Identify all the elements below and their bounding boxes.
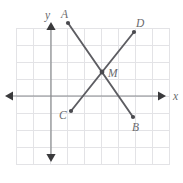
point-label-c: C [59, 109, 67, 121]
point-d [132, 30, 136, 34]
point-label-a: A [60, 8, 69, 20]
y-axis-label: y [44, 9, 51, 22]
geometry-diagram-svg: ABCDM x y [0, 0, 183, 183]
y-axis-down-arrow-icon [46, 154, 55, 162]
x-axis-right-arrow-icon [158, 91, 166, 100]
point-label-m: M [107, 67, 119, 79]
point-a [66, 21, 70, 25]
y-axis-up-arrow-icon [46, 22, 55, 30]
x-axis-left-arrow-icon [5, 91, 13, 100]
point-label-d: D [135, 17, 145, 29]
point-c [69, 109, 73, 113]
x-axis-label: x [172, 90, 179, 102]
point-m [100, 70, 105, 75]
point-label-b: B [132, 121, 139, 133]
point-b [131, 115, 135, 119]
coordinate-plane-figure: ABCDM x y [0, 0, 183, 183]
